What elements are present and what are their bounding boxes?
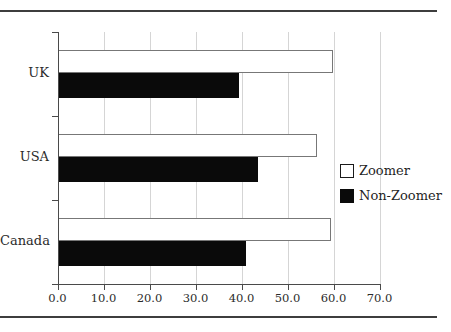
x-tick-label: 60.0 — [314, 291, 354, 305]
x-tick-label: 40.0 — [222, 291, 262, 305]
legend-label-non-zoomer: Non-Zoomer — [359, 188, 442, 203]
x-tick — [58, 285, 59, 290]
x-tick — [380, 285, 381, 290]
gridline — [334, 32, 335, 284]
x-tick — [150, 285, 151, 290]
y-axis — [58, 32, 59, 285]
x-tick — [242, 285, 243, 290]
legend-item-non-zoomer: Non-Zoomer — [340, 188, 442, 203]
x-tick-label: 30.0 — [176, 291, 216, 305]
category-label-usa: USA — [0, 151, 49, 163]
legend-label-zoomer: Zoomer — [359, 163, 410, 178]
y-tick — [52, 284, 58, 285]
non-zoomer-swatch-icon — [340, 189, 354, 203]
x-tick-label: 50.0 — [268, 291, 308, 305]
x-tick-label: 0.0 — [38, 291, 78, 305]
category-label-canada: Canada — [0, 235, 49, 247]
y-tick — [52, 32, 58, 33]
x-tick-label: 20.0 — [130, 291, 170, 305]
zoomer-swatch-icon — [340, 164, 354, 178]
chart-figure: UKUSACanada0.010.020.030.040.050.060.070… — [0, 0, 451, 332]
x-axis — [57, 284, 381, 285]
gridline — [380, 32, 381, 284]
x-tick-label: 10.0 — [84, 291, 124, 305]
category-label-uk: UK — [0, 67, 49, 79]
x-tick — [334, 285, 335, 290]
bar-nonzoomer-canada — [58, 241, 246, 266]
bar-zoomer-uk — [58, 50, 334, 73]
x-tick — [104, 285, 105, 290]
bar-zoomer-usa — [58, 134, 317, 157]
bar-zoomer-canada — [58, 218, 331, 241]
top-rule — [0, 10, 437, 12]
y-tick — [52, 200, 58, 201]
legend-item-zoomer: Zoomer — [340, 163, 442, 178]
x-tick-label: 70.0 — [360, 291, 400, 305]
x-tick — [288, 285, 289, 290]
y-tick — [52, 116, 58, 117]
x-tick — [196, 285, 197, 290]
bottom-rule — [0, 316, 437, 318]
bar-nonzoomer-uk — [58, 73, 240, 98]
legend: Zoomer Non-Zoomer — [340, 163, 442, 213]
bar-nonzoomer-usa — [58, 157, 258, 182]
